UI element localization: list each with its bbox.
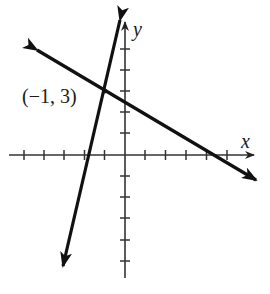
shallow-line <box>37 50 256 180</box>
steep-line <box>63 20 120 266</box>
y-axis-label: y <box>131 18 142 41</box>
coordinate-graph: x y (−1, 3) <box>0 0 270 294</box>
x-axis-label: x <box>240 130 250 152</box>
intersection-point <box>102 89 107 94</box>
y-axis: y <box>120 18 142 278</box>
intersection-label: (−1, 3) <box>22 85 77 108</box>
